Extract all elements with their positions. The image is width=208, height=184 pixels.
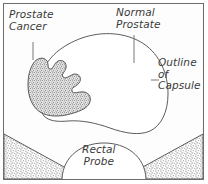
prostate-diagram-figure: Prostate Cancer Normal Prostate Outline … [0, 0, 208, 184]
label-rectal-probe: Rectal Probe [82, 144, 116, 167]
label-prostate-cancer: Prostate Cancer [9, 9, 53, 32]
label-normal-prostate: Normal Prostate [116, 7, 160, 30]
label-outline-of-capsule: Outline of Capsule [158, 57, 201, 92]
